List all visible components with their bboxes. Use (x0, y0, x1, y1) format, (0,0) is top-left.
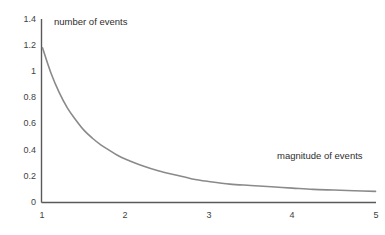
y-tick-label: 0 (10, 197, 36, 207)
x-tick-label: 5 (366, 210, 385, 220)
x-tick-label: 1 (32, 210, 52, 220)
y-tick-label: 1.4 (10, 14, 36, 24)
x-tick-label: 3 (199, 210, 219, 220)
x-axis-label: magnitude of events (277, 150, 363, 161)
chart-container: 1.4 1.2 1 0.8 0.6 0.4 0.2 0 1 2 3 4 5 nu… (0, 0, 385, 235)
y-tick-label: 1.2 (10, 40, 36, 50)
x-tick-label: 2 (115, 210, 135, 220)
data-series-curve (43, 48, 376, 192)
x-tick-label: 4 (282, 210, 302, 220)
y-tick-label: 0.2 (10, 171, 36, 181)
y-tick-label: 1 (10, 66, 36, 76)
plot-area (0, 0, 385, 235)
y-tick-label: 0.8 (10, 92, 36, 102)
y-tick-label: 0.6 (10, 118, 36, 128)
y-tick-label: 0.4 (10, 145, 36, 155)
y-axis-label: number of events (54, 16, 127, 27)
